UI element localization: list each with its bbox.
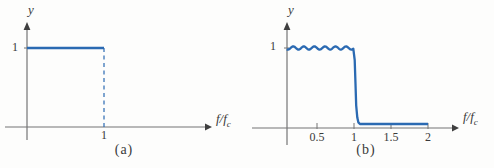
plot-a-x-axis-label: f/fc xyxy=(216,112,231,129)
low-pass-filter-response-figure: y 1 1 f/fc (a) y 1 0.5 1 1.5 2 f/fc (b) xyxy=(0,0,494,168)
plot-a-x-axis-arrow-icon xyxy=(205,124,212,131)
plot-b-x-axis-label: f/fc xyxy=(463,110,478,127)
plot-a-x-tick-1: 1 xyxy=(97,129,111,141)
plot-b-y-axis-label: y xyxy=(288,3,294,16)
plot-b-x-axis-arrow-icon xyxy=(452,125,459,132)
plot-a-y-tick-1: 1 xyxy=(12,41,18,53)
plot-b-y-tick-1: 1 xyxy=(270,40,276,52)
plot-b-y-axis-arrow-icon xyxy=(284,22,291,30)
plot-b-caption: (b) xyxy=(346,143,386,157)
plot-a-caption: (a) xyxy=(104,143,144,157)
plot-b-series-practical-response xyxy=(287,46,428,124)
plot-b-x-tick-2: 2 xyxy=(416,131,440,143)
plot-b-x-tick-0-5: 0.5 xyxy=(305,131,329,143)
plot-a-y-axis-label: y xyxy=(28,3,34,16)
plot-b-x-tick-1-5: 1.5 xyxy=(379,131,403,143)
plot-a-y-axis-arrow-icon xyxy=(24,22,31,30)
